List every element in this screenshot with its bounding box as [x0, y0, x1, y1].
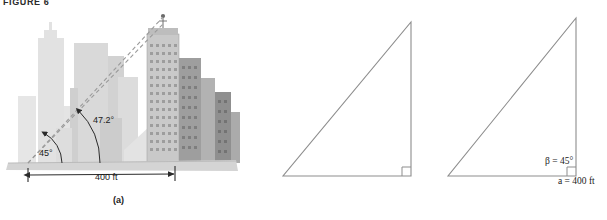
main-tower [147, 28, 179, 163]
triangle-1-angle-label: β = 45° [545, 156, 573, 166]
panel-caption-a: (a) [113, 195, 124, 205]
triangle-1 [283, 22, 411, 176]
right-angle-marker-1 [402, 167, 411, 176]
triangles-diagram [240, 0, 607, 220]
midground-buildings [56, 43, 150, 163]
triangle-1-base-label: a = 400 ft [558, 176, 595, 186]
angle-label-47: 47.2° [93, 115, 114, 125]
panel-triangles: β = 45° a = 400 ft b β′ = 47.2° a = 400 … [240, 0, 607, 220]
skyline-illustration [0, 0, 240, 220]
dimension-label-400ft: 400 ft [95, 172, 118, 182]
triangle-2 [448, 18, 576, 176]
right-angle-marker-2 [567, 167, 576, 176]
angle-label-45: 45° [39, 148, 53, 158]
tower-antenna-icon [159, 14, 167, 28]
panel-illustration: 45° 47.2° 400 ft (a) [0, 0, 240, 220]
right-buildings [179, 58, 240, 163]
